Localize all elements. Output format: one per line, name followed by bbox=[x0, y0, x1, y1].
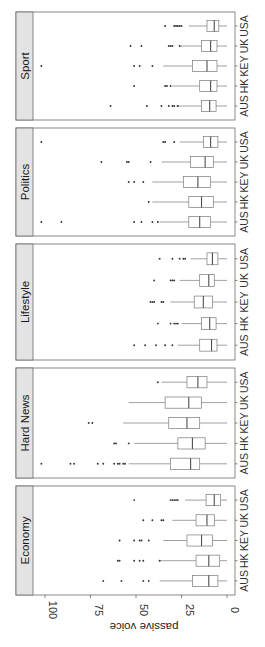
outlier-point bbox=[173, 499, 175, 501]
outlier-point bbox=[128, 442, 130, 444]
outlier-point bbox=[133, 65, 135, 67]
outlier-point bbox=[162, 301, 164, 303]
outlier-point bbox=[175, 25, 177, 27]
iqr-box bbox=[202, 41, 217, 52]
box-aus: AUS bbox=[110, 95, 250, 117]
outlier-point bbox=[142, 181, 144, 183]
iqr-box bbox=[200, 339, 217, 351]
iqr-box bbox=[202, 101, 217, 112]
axis-title: passive voice bbox=[109, 621, 178, 633]
outlier-point bbox=[60, 221, 62, 223]
box-uk: UK bbox=[153, 273, 250, 288]
outlier-point bbox=[100, 161, 102, 163]
outlier-point bbox=[141, 221, 143, 223]
iqr-box bbox=[200, 274, 215, 286]
facet-strip-label: Economy bbox=[19, 516, 31, 564]
category-label: KEY bbox=[238, 291, 250, 312]
box-hk: HK bbox=[133, 79, 250, 94]
outlier-point bbox=[133, 540, 135, 542]
outlier-point bbox=[170, 85, 172, 87]
outlier-point bbox=[168, 45, 170, 47]
outlier-point bbox=[70, 463, 72, 465]
category-label: KEY bbox=[238, 171, 250, 192]
outlier-point bbox=[164, 85, 166, 87]
iqr-box bbox=[192, 575, 217, 586]
outlier-point bbox=[179, 45, 181, 47]
category-label: KEY bbox=[238, 412, 250, 433]
box-key: KEY bbox=[88, 412, 250, 433]
outlier-point bbox=[164, 344, 166, 346]
facet-sport: SportAUSHKKEYUKUSA bbox=[16, 12, 250, 120]
outlier-point bbox=[139, 540, 141, 542]
iqr-box bbox=[169, 417, 200, 428]
iqr-box bbox=[187, 535, 212, 546]
value-axis: 0255075100 bbox=[45, 595, 241, 619]
category-label: AUS bbox=[238, 453, 250, 475]
iqr-box bbox=[207, 21, 219, 32]
outlier-point bbox=[119, 560, 121, 562]
outlier-point bbox=[173, 141, 175, 143]
category-label: USA bbox=[238, 248, 250, 270]
value-tick-label: 100 bbox=[47, 601, 59, 619]
outlier-point bbox=[171, 279, 173, 281]
outlier-point bbox=[148, 201, 150, 203]
outlier-point bbox=[173, 279, 175, 281]
outlier-point bbox=[40, 141, 42, 143]
outlier-point bbox=[161, 105, 163, 107]
box-key: KEY bbox=[40, 55, 250, 76]
outlier-point bbox=[175, 323, 177, 325]
outlier-point bbox=[153, 279, 155, 281]
box-hk: HK bbox=[117, 553, 250, 568]
outlier-point bbox=[173, 25, 175, 27]
facet-economy: EconomyAUSHKKEYUKUSA bbox=[16, 486, 250, 595]
outlier-point bbox=[150, 301, 152, 303]
box-key: KEY bbox=[128, 171, 250, 192]
outlier-point bbox=[168, 105, 170, 107]
outlier-point bbox=[177, 105, 179, 107]
box-usa: USA bbox=[40, 131, 250, 153]
category-label: AUS bbox=[238, 570, 250, 592]
box-usa: USA bbox=[164, 15, 250, 37]
facet-lifestyle: LifestyleAUSHKKEYUKUSA bbox=[16, 244, 250, 360]
iqr-box bbox=[187, 377, 207, 388]
outlier-point bbox=[173, 323, 175, 325]
value-tick-label: 0 bbox=[229, 607, 241, 613]
category-label: AUS bbox=[238, 334, 250, 356]
outlier-point bbox=[88, 422, 90, 424]
outlier-point bbox=[139, 65, 141, 67]
outlier-point bbox=[91, 422, 93, 424]
outlier-point bbox=[164, 25, 166, 27]
outlier-point bbox=[177, 25, 179, 27]
outlier-point bbox=[117, 463, 119, 465]
outlier-point bbox=[73, 463, 75, 465]
facet-strip-label: Politics bbox=[19, 164, 31, 201]
outlier-point bbox=[161, 301, 163, 303]
outlier-point bbox=[133, 85, 135, 87]
outlier-point bbox=[171, 45, 173, 47]
outlier-point bbox=[141, 540, 143, 542]
outlier-point bbox=[40, 221, 42, 223]
outlier-point bbox=[119, 463, 121, 465]
box-uk: UK bbox=[100, 155, 250, 170]
outlier-point bbox=[151, 65, 153, 67]
iqr-box bbox=[202, 318, 217, 330]
category-label: KEY bbox=[238, 530, 250, 551]
outlier-point bbox=[171, 258, 173, 260]
outlier-point bbox=[162, 141, 164, 143]
outlier-point bbox=[130, 45, 132, 47]
outlier-point bbox=[40, 463, 42, 465]
outlier-point bbox=[170, 499, 172, 501]
outlier-point bbox=[179, 25, 181, 27]
box-aus: AUS bbox=[102, 570, 250, 592]
outlier-point bbox=[171, 499, 173, 501]
category-label: USA bbox=[238, 131, 250, 153]
category-label: USA bbox=[238, 489, 250, 511]
outlier-point bbox=[179, 258, 181, 260]
facet-panels: EconomyAUSHKKEYUKUSAHard NewsAUSHKKEYUKU… bbox=[16, 12, 250, 595]
facet-politics: PoliticsAUSHKKEYUKUSA bbox=[16, 128, 250, 236]
outlier-point bbox=[148, 540, 150, 542]
iqr-box bbox=[192, 61, 217, 72]
box-uk: UK bbox=[130, 39, 250, 54]
outlier-point bbox=[166, 85, 168, 87]
outlier-point bbox=[170, 279, 172, 281]
